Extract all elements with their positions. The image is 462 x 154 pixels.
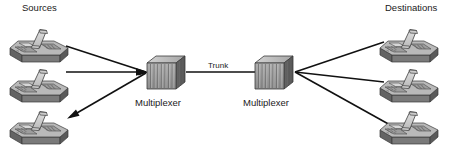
destinations-label: Destinations [385,2,438,13]
link-destination-2 [295,72,384,82]
source-phone-3[interactable] [10,112,68,145]
link-source-1 [66,46,146,72]
destination-phones-group [380,30,438,145]
source-phone-1[interactable] [10,30,68,63]
destination-phone-2[interactable] [380,70,438,103]
source-phone-2[interactable] [10,70,68,103]
link-destination-1 [295,42,384,72]
link-source-3 [70,73,146,117]
link-source-3-arrowhead [67,110,80,119]
link-destination-3 [295,72,392,126]
multiplexer-left-label: Multiplexer [135,97,181,108]
source-phones-group [10,30,68,145]
multiplexer-left[interactable] [147,56,185,89]
trunk-label: Trunk [208,61,229,70]
diagram-canvas: Sources Destinations Trunk Multiplexer M… [0,0,462,154]
connection-lines [66,42,392,126]
destination-phone-3[interactable] [380,112,438,145]
multiplexer-right[interactable] [255,56,293,89]
multiplexer-right-label: Multiplexer [243,97,289,108]
destination-phone-1[interactable] [380,30,438,63]
network-diagram: Sources Destinations Trunk Multiplexer M… [0,0,462,154]
sources-label: Sources [22,2,57,13]
